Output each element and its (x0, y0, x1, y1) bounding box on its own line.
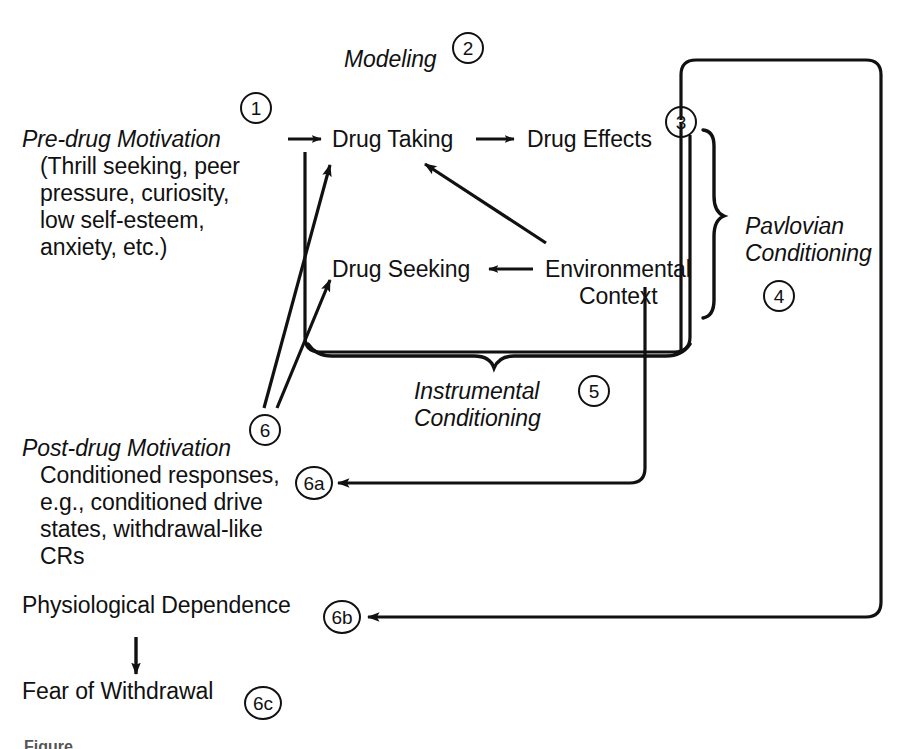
node-drug-taking: Drug Taking (332, 126, 453, 153)
node-post-drug-motivation: Post-drug Motivation Conditioned respons… (22, 435, 261, 570)
post-drug-motivation-line-3: states, withdrawal-like (40, 516, 279, 543)
post-drug-motivation-line-2: e.g., conditioned drive (40, 489, 279, 516)
brace-instrumental (308, 344, 690, 368)
marker-1: 1 (240, 92, 272, 124)
instrumental-line-1: Instrumental (414, 378, 541, 405)
marker-6b: 6b (323, 600, 361, 634)
node-fear-of-withdrawal: Fear of Withdrawal (22, 678, 213, 705)
edge-envcontext-to-drugtaking-diagonal (425, 164, 546, 243)
post-drug-motivation-line-4: CRs (40, 543, 279, 570)
marker-6a: 6a (295, 466, 333, 500)
post-drug-motivation-line-1: Conditioned responses, (40, 462, 279, 489)
pre-drug-motivation-line-4: anxiety, etc.) (40, 234, 240, 261)
marker-2: 2 (452, 32, 484, 64)
pre-drug-motivation-line-3: low self-esteem, (40, 207, 240, 234)
node-pre-drug-motivation: Pre-drug Motivation (Thrill seeking, pee… (22, 126, 222, 261)
node-drug-seeking: Drug Seeking (332, 256, 470, 283)
edge-instrumental-loop (305, 135, 690, 352)
environmental-context-line-1: Environmental (545, 256, 691, 283)
diagram-wires (0, 0, 897, 749)
instrumental-line-2: Conditioning (414, 405, 541, 432)
pre-drug-motivation-line-2: pressure, curiosity, (40, 180, 240, 207)
marker-4: 4 (763, 280, 795, 312)
marker-3: 3 (665, 106, 697, 138)
figure-canvas: Modeling Pre-drug Motivation (Thrill see… (0, 0, 897, 749)
node-pavlovian-conditioning: Pavlovian Conditioning (745, 213, 872, 267)
marker-6: 6 (249, 414, 281, 446)
pre-drug-motivation-line-1: (Thrill seeking, peer (40, 153, 240, 180)
node-physiological-dependence: Physiological Dependence (22, 592, 291, 619)
node-drug-effects: Drug Effects (527, 126, 652, 153)
environmental-context-line-2: Context (579, 283, 725, 310)
marker-6c: 6c (244, 686, 282, 720)
pavlovian-line-2: Conditioning (745, 240, 872, 267)
edge-postdrug-to-drugtaking-diagonal (264, 165, 330, 408)
figure-caption-partial: Figure (24, 738, 73, 749)
node-instrumental-conditioning: Instrumental Conditioning (414, 378, 541, 432)
node-environmental-context: Environmental Context (545, 256, 691, 310)
pre-drug-motivation-title: Pre-drug Motivation (22, 126, 222, 153)
node-modeling: Modeling (344, 46, 437, 73)
post-drug-motivation-title: Post-drug Motivation (22, 435, 261, 462)
marker-5: 5 (578, 375, 610, 407)
pavlovian-line-1: Pavlovian (745, 213, 872, 240)
